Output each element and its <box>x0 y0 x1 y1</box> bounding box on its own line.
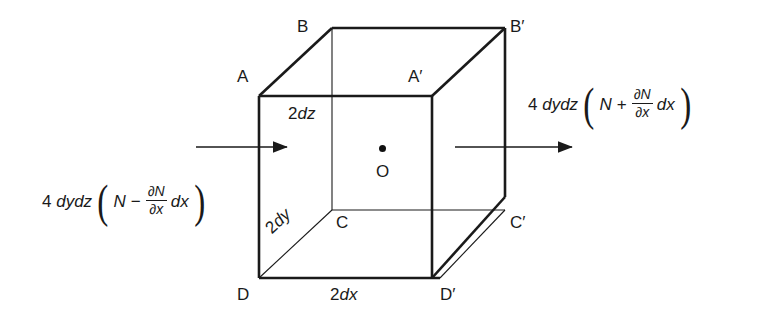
vertex-label-A: A <box>237 68 248 85</box>
outgoing-flux-fraction: ∂N ∂x <box>632 87 653 120</box>
vertex-label-A-prime: A′ <box>408 68 423 85</box>
incoming-flux-base-variable: N <box>113 193 125 210</box>
outgoing-flux-expression: 4 dydz ( N + ∂N ∂x dx ) <box>528 88 694 121</box>
center-point-label: O <box>376 163 389 180</box>
vertex-label-B: B <box>297 18 308 35</box>
cube-diagram <box>0 0 760 317</box>
incoming-flux-differential: dx <box>171 193 189 210</box>
outgoing-flux-denominator: ∂x <box>633 105 651 120</box>
incoming-flux-close-paren: ) <box>194 185 205 218</box>
incoming-flux-coefficient-number: 4 <box>42 192 51 211</box>
dimension-label-2dz: 2dz <box>288 105 315 122</box>
outgoing-flux-open-paren: ( <box>583 88 594 121</box>
vertex-label-B-prime: B′ <box>510 18 525 35</box>
outgoing-flux-coefficient-number: 4 <box>528 95 537 114</box>
outgoing-flux-inner: N + ∂N ∂x dx <box>597 88 676 121</box>
dimension-2dx-symbol: dx <box>339 285 357 304</box>
vertex-label-C: C <box>336 214 348 231</box>
incoming-flux-denominator: ∂x <box>147 202 165 217</box>
vertex-label-C-prime: C′ <box>510 214 525 231</box>
outgoing-flux-differential: dx <box>657 96 675 113</box>
vertex-label-D-prime: D′ <box>440 286 455 303</box>
incoming-flux-fraction: ∂N ∂x <box>146 184 167 217</box>
incoming-flux-operator: − <box>130 193 142 210</box>
outgoing-flux-coefficient-symbol: dydz <box>542 95 578 114</box>
cube-back-edges <box>259 28 505 278</box>
vertex-label-D: D <box>237 286 249 303</box>
outgoing-flux-numerator: ∂N <box>632 87 653 102</box>
incoming-flux-coefficient-symbol: dydz <box>56 192 92 211</box>
outgoing-flux-base-variable: N <box>599 96 611 113</box>
incoming-flux-expression: 4 dydz ( N − ∂N ∂x dx ) <box>42 185 208 218</box>
incoming-flux-numerator: ∂N <box>146 184 167 199</box>
outgoing-flux-coefficient: 4 dydz <box>528 96 578 113</box>
incoming-flux-coefficient: 4 dydz <box>42 193 92 210</box>
figure-canvas: A B A′ B′ C C′ D D′ O 2dz 2dy 2dx 4 dydz… <box>0 0 760 317</box>
center-point-dot <box>379 145 386 152</box>
incoming-flux-inner: N − ∂N ∂x dx <box>111 185 190 218</box>
outgoing-flux-operator: + <box>616 96 628 113</box>
outgoing-flux-close-paren: ) <box>680 88 691 121</box>
cube-outer-edges <box>259 28 505 278</box>
incoming-flux-open-paren: ( <box>97 185 108 218</box>
dimension-label-2dx: 2dx <box>330 286 357 303</box>
dimension-2dz-symbol: dz <box>297 104 315 123</box>
